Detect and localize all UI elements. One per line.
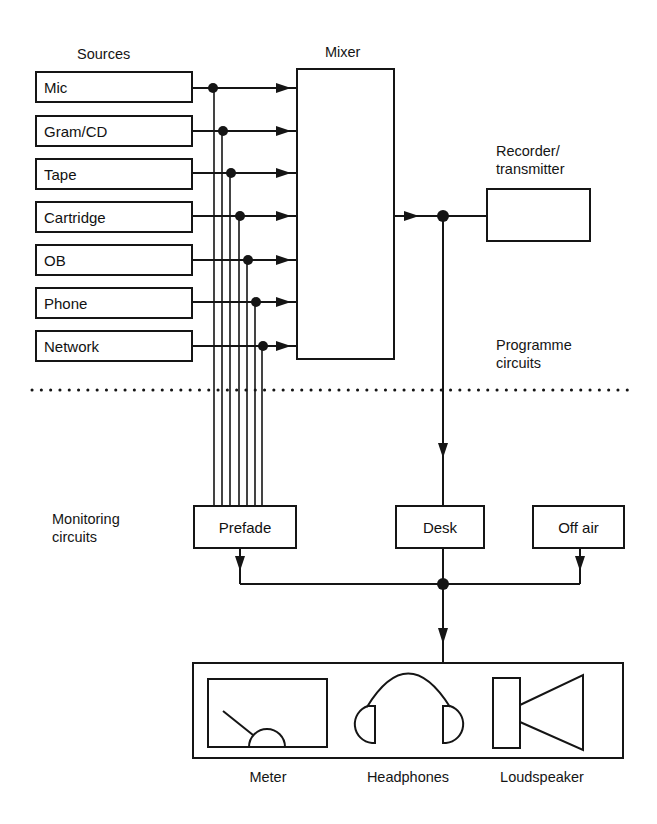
source-box-mic: Mic (35, 71, 193, 103)
source-label: Phone (44, 295, 87, 312)
audio-signal-flow-diagram: Sources Mixer Recorder/ transmitter Prog… (0, 0, 657, 824)
source-box-network: Network (35, 330, 193, 362)
off-air-label: Off air (558, 519, 599, 536)
desk-label: Desk (423, 519, 457, 536)
source-box-gram-cd: Gram/CD (35, 115, 193, 147)
source-label: Gram/CD (44, 123, 107, 140)
prefade-box: Prefade (193, 505, 297, 549)
monitoring-circuits-line2: circuits (52, 528, 97, 546)
recorder-heading-line2: transmitter (496, 160, 565, 178)
source-label: Tape (44, 166, 77, 183)
headphones-icon (350, 675, 468, 745)
meter-icon (208, 679, 327, 747)
source-box-phone: Phone (35, 287, 193, 319)
recorder-heading-line1: Recorder/ (496, 142, 560, 160)
meter-label: Meter (228, 768, 308, 786)
source-label: Network (44, 338, 99, 355)
source-label: OB (44, 252, 66, 269)
headphones-label: Headphones (358, 768, 458, 786)
source-label: Cartridge (44, 209, 106, 226)
off-air-box: Off air (532, 505, 625, 549)
recorder-transmitter-box (486, 188, 591, 242)
prefade-label: Prefade (219, 519, 272, 536)
loudspeaker-icon (493, 675, 584, 751)
source-box-tape: Tape (35, 158, 193, 190)
sources-heading: Sources (77, 45, 130, 63)
programme-circuits-line1: Programme (496, 336, 572, 354)
programme-circuits-line2: circuits (496, 354, 541, 372)
monitoring-circuits-line1: Monitoring (52, 510, 120, 528)
source-label: Mic (44, 79, 67, 96)
loudspeaker-label: Loudspeaker (487, 768, 597, 786)
source-box-cartridge: Cartridge (35, 201, 193, 233)
desk-box: Desk (395, 505, 485, 549)
source-box-ob: OB (35, 244, 193, 276)
mixer-heading: Mixer (325, 43, 360, 61)
